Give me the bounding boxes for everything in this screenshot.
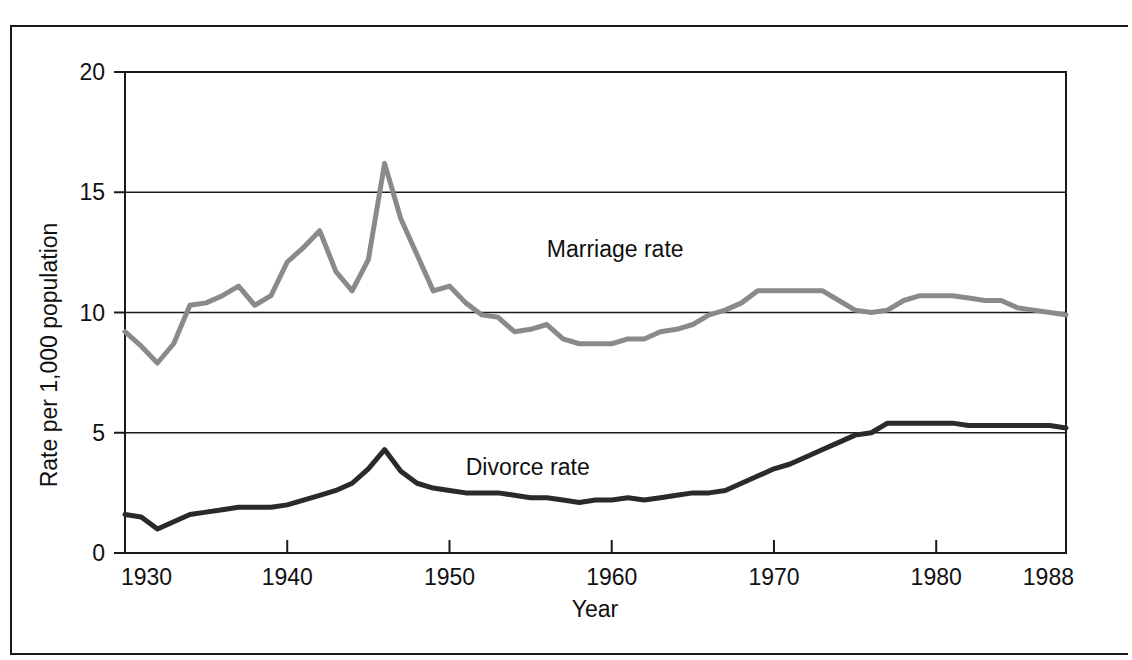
series-label-marriage-rate: Marriage rate [547,236,684,262]
y-axis-ticks [114,72,125,553]
y-tick-label-15: 15 [79,179,105,205]
x-tick-label-1980: 1980 [911,564,962,590]
y-axis-tick-labels: 05101520 [79,59,105,566]
x-tick-label-1930: 1930 [121,564,172,590]
x-axis-title: Year [572,596,619,622]
y-tick-label-20: 20 [79,59,105,85]
line-chart: 05101520 1930194019501960197019801988 Ma… [0,0,1132,660]
series-label-divorce-rate: Divorce rate [466,454,590,480]
x-tick-label-1970: 1970 [748,564,799,590]
x-tick-label-1940: 1940 [262,564,313,590]
y-tick-label-0: 0 [92,540,105,566]
x-tick-label-1960: 1960 [586,564,637,590]
x-tick-label-1988: 1988 [1023,564,1074,590]
y-tick-label-5: 5 [92,420,105,446]
y-axis-title: Rate per 1,000 population [36,223,62,488]
x-axis-tick-labels: 1930194019501960197019801988 [121,564,1074,590]
x-tick-label-1950: 1950 [424,564,475,590]
y-tick-label-10: 10 [79,300,105,326]
figure: 05101520 1930194019501960197019801988 Ma… [0,0,1132,660]
